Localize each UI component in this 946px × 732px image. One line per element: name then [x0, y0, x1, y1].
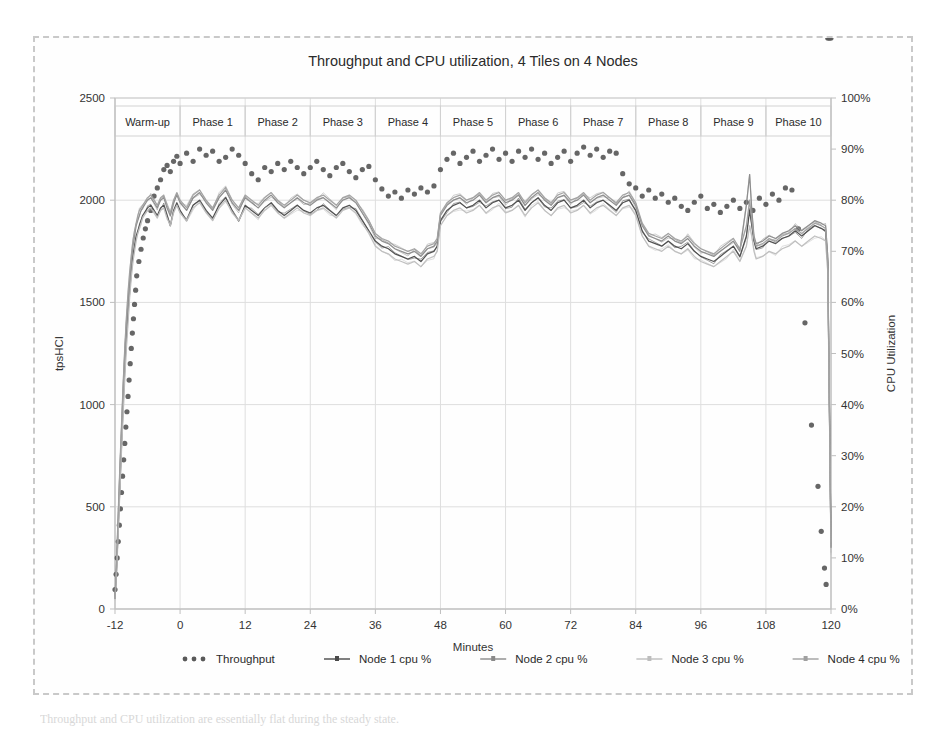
throughput-point: [646, 187, 651, 192]
cpu-series-line-1: [115, 198, 831, 599]
throughput-point: [366, 164, 371, 169]
throughput-point: [138, 247, 143, 252]
cpu-series-noise-1: [115, 197, 831, 598]
throughput-point: [127, 377, 132, 382]
figure-caption: Throughput and CPU utilization are essen…: [40, 712, 910, 727]
throughput-point: [314, 159, 319, 164]
throughput-point: [503, 151, 508, 156]
right-axis-tick-label: 20%: [841, 501, 864, 513]
throughput-point: [223, 155, 228, 160]
throughput-point: [522, 155, 527, 160]
throughput-point: [141, 235, 146, 240]
legend-marker-dots: [183, 657, 188, 662]
right-axis-tick-label: 0%: [841, 603, 858, 615]
throughput-point: [230, 147, 235, 152]
throughput-point: [542, 151, 547, 156]
x-axis-tick-label: 96: [694, 619, 707, 631]
cpu-series-line-2: [115, 175, 831, 599]
x-axis-tick-label: 72: [564, 619, 577, 631]
right-axis-tick-label: 100%: [841, 92, 870, 104]
cpu-series-line-3: [115, 200, 831, 599]
right-axis-tick-label: 10%: [841, 552, 864, 564]
chart-legend: ThroughputNode 1 cpu %Node 2 cpu %Node 3…: [183, 653, 900, 665]
throughput-point: [516, 149, 521, 154]
throughput-point: [347, 169, 352, 174]
throughput-point: [133, 288, 138, 293]
x-axis-tick-label: 48: [434, 619, 447, 631]
throughput-point: [373, 177, 378, 182]
throughput-point: [191, 159, 196, 164]
phase-band-label-3: Phase 3: [323, 116, 363, 128]
throughput-point: [130, 330, 135, 335]
throughput-point: [128, 361, 133, 366]
throughput-point: [535, 157, 540, 162]
x-axis-tick-label: 12: [239, 619, 252, 631]
throughput-point: [275, 161, 280, 166]
throughput-point: [256, 177, 261, 182]
throughput-point: [496, 157, 501, 162]
throughput-point: [692, 200, 697, 205]
throughput-point: [549, 161, 554, 166]
throughput-point: [620, 171, 625, 176]
throughput-point: [405, 187, 410, 192]
throughput-point: [666, 200, 671, 205]
plot-area-border: [115, 98, 831, 609]
phase-band-label-5: Phase 5: [453, 116, 493, 128]
left-axis-tick-label: 2000: [79, 194, 105, 206]
throughput-point: [236, 153, 241, 158]
throughput-point: [418, 185, 423, 190]
throughput-point: [136, 259, 141, 264]
throughput-point: [122, 441, 127, 446]
x-axis-tick-label: 36: [369, 619, 382, 631]
x-axis-tick-label: -12: [107, 619, 124, 631]
chart-svg: Throughput and CPU utilization, 4 Tiles …: [35, 38, 911, 693]
throughput-point: [627, 181, 632, 186]
throughput-point: [783, 185, 788, 190]
throughput-point: [360, 167, 365, 172]
throughput-point: [763, 202, 768, 207]
throughput-point: [412, 191, 417, 196]
throughput-point: [490, 147, 495, 152]
throughput-point: [483, 153, 488, 158]
chart-container: Throughput and CPU utilization, 4 Tiles …: [33, 36, 913, 695]
right-axis-title: CPU Utilization: [885, 315, 897, 392]
throughput-point: [164, 163, 169, 168]
phase-band-label-6: Phase 6: [518, 116, 558, 128]
throughput-point: [770, 191, 775, 196]
right-axis-tick-label: 70%: [841, 245, 864, 257]
throughput-point: [633, 185, 638, 190]
throughput-point: [809, 422, 814, 427]
x-axis-tick-label: 0: [177, 619, 183, 631]
throughput-point: [718, 210, 723, 215]
throughput-point: [724, 204, 729, 209]
left-axis-title: tpsHCI: [53, 336, 65, 371]
right-axis-tick-label: 30%: [841, 450, 864, 462]
throughput-point: [698, 194, 703, 199]
throughput-point: [288, 159, 293, 164]
throughput-point: [121, 457, 126, 462]
cpu-series-noise-2: [115, 174, 831, 599]
x-axis-tick-label: 108: [756, 619, 775, 631]
throughput-point: [353, 175, 358, 180]
throughput-point: [327, 173, 332, 178]
legend-marker-dots: [192, 657, 197, 662]
throughput-point: [819, 529, 824, 534]
right-axis-tick-label: 60%: [841, 296, 864, 308]
throughput-point: [470, 149, 475, 154]
phase-band-label-0: Warm-up: [125, 116, 170, 128]
right-axis-tick-label: 90%: [841, 143, 864, 155]
throughput-point: [217, 159, 222, 164]
legend-marker-point: [647, 656, 651, 661]
throughput-point: [685, 208, 690, 213]
phase-band-label-9: Phase 9: [713, 116, 753, 128]
left-axis-tick-label: 500: [86, 501, 105, 513]
right-axis-tick-label: 50%: [841, 348, 864, 360]
throughput-point: [601, 155, 606, 160]
throughput-point: [129, 346, 134, 351]
throughput-point: [282, 167, 287, 172]
throughput-point: [444, 157, 449, 162]
throughput-point: [177, 161, 182, 166]
throughput-point: [399, 196, 404, 201]
throughput-point: [529, 147, 534, 152]
throughput-point: [308, 165, 313, 170]
